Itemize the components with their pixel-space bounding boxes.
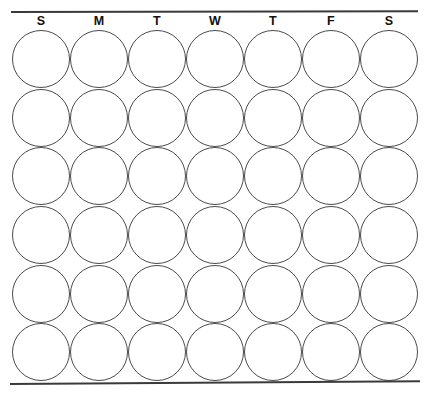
grid-row: [12, 30, 418, 89]
circle-cell[interactable]: [244, 206, 302, 264]
circle-cell[interactable]: [186, 265, 244, 323]
circle-cell[interactable]: [12, 30, 70, 88]
circle-cell[interactable]: [186, 206, 244, 264]
circle-cell[interactable]: [128, 89, 186, 147]
circle-cell[interactable]: [186, 323, 244, 381]
weekday-label-tuesday: T: [128, 13, 186, 30]
circle-cell[interactable]: [70, 265, 128, 323]
circle-cell[interactable]: [128, 206, 186, 264]
circle-cell[interactable]: [360, 147, 418, 205]
circle-cell[interactable]: [12, 323, 70, 381]
circle-cell[interactable]: [360, 89, 418, 147]
grid-row: [12, 206, 418, 265]
circle-cell[interactable]: [70, 30, 128, 88]
circle-cell[interactable]: [12, 147, 70, 205]
grid-row: [12, 323, 418, 382]
circle-cell[interactable]: [70, 89, 128, 147]
circle-cell[interactable]: [302, 147, 360, 205]
grid-row: [12, 147, 418, 206]
circle-cell[interactable]: [70, 147, 128, 205]
circle-cell[interactable]: [244, 89, 302, 147]
circle-cell[interactable]: [360, 206, 418, 264]
grid-row: [12, 265, 418, 324]
circle-cell[interactable]: [244, 147, 302, 205]
circle-cell[interactable]: [128, 265, 186, 323]
circle-cell[interactable]: [128, 30, 186, 88]
weekday-label-sunday: S: [12, 13, 70, 30]
circle-cell[interactable]: [244, 323, 302, 381]
circle-cell[interactable]: [360, 30, 418, 88]
circle-cell[interactable]: [186, 30, 244, 88]
tracker-sheet: SMTWTFS: [0, 0, 430, 400]
circle-cell[interactable]: [186, 147, 244, 205]
circle-cell[interactable]: [360, 265, 418, 323]
circle-cell[interactable]: [12, 89, 70, 147]
circle-cell[interactable]: [302, 323, 360, 381]
circle-grid: [12, 30, 418, 382]
circle-cell[interactable]: [12, 206, 70, 264]
circle-cell[interactable]: [70, 206, 128, 264]
weekday-header: SMTWTFS: [12, 13, 418, 30]
grid-row: [12, 89, 418, 148]
circle-cell[interactable]: [360, 323, 418, 381]
weekday-label-thursday: T: [244, 13, 302, 30]
circle-cell[interactable]: [128, 147, 186, 205]
weekday-label-monday: M: [70, 13, 128, 30]
circle-cell[interactable]: [302, 30, 360, 88]
circle-cell[interactable]: [128, 323, 186, 381]
circle-cell[interactable]: [70, 323, 128, 381]
circle-cell[interactable]: [302, 206, 360, 264]
circle-cell[interactable]: [244, 265, 302, 323]
weekday-label-wednesday: W: [186, 13, 244, 30]
circle-cell[interactable]: [302, 265, 360, 323]
circle-cell[interactable]: [186, 89, 244, 147]
circle-cell[interactable]: [244, 30, 302, 88]
circle-cell[interactable]: [302, 89, 360, 147]
circle-cell[interactable]: [12, 265, 70, 323]
weekday-label-friday: F: [302, 13, 360, 30]
weekday-label-saturday: S: [360, 13, 418, 30]
